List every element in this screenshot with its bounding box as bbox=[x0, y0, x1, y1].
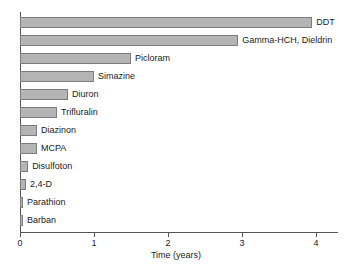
bar bbox=[20, 17, 312, 28]
x-axis-title: Time (years) bbox=[0, 250, 352, 260]
bar bbox=[20, 107, 57, 118]
bar-label: 2,4-D bbox=[30, 178, 52, 191]
bar-label: Parathion bbox=[27, 196, 66, 209]
x-tick-label: 2 bbox=[158, 238, 178, 249]
x-tick bbox=[20, 232, 21, 237]
bar-row: Disulfoton bbox=[0, 158, 352, 176]
bar-row: Diazinon bbox=[0, 122, 352, 140]
x-tick bbox=[242, 232, 243, 237]
bar bbox=[20, 35, 238, 46]
bar-label: Picloram bbox=[135, 52, 170, 65]
bar bbox=[20, 197, 23, 208]
bar-row: 2,4-D bbox=[0, 176, 352, 194]
bar-row: Barban bbox=[0, 212, 352, 230]
bar-label: MCPA bbox=[41, 142, 66, 155]
bar-label: Diazinon bbox=[41, 124, 76, 137]
bar bbox=[20, 71, 94, 82]
x-tick bbox=[94, 232, 95, 237]
bar-row: Diuron bbox=[0, 86, 352, 104]
horizontal-bar-chart: DDTGamma-HCH, DieldrinPicloramSimazineDi… bbox=[0, 0, 352, 268]
bar-label: DDT bbox=[316, 16, 335, 29]
bar-label: Trifluralin bbox=[61, 106, 98, 119]
bar bbox=[20, 161, 28, 172]
bar-label: Disulfoton bbox=[32, 160, 72, 173]
bar bbox=[20, 143, 37, 154]
x-tick-label: 1 bbox=[84, 238, 104, 249]
bar-row: Picloram bbox=[0, 50, 352, 68]
bar bbox=[20, 179, 26, 190]
x-axis-line bbox=[20, 232, 338, 233]
bar-row: Simazine bbox=[0, 68, 352, 86]
bar-label: Gamma-HCH, Dieldrin bbox=[242, 34, 332, 47]
bar bbox=[20, 89, 68, 100]
x-tick-label: 4 bbox=[306, 238, 326, 249]
bar bbox=[20, 53, 131, 64]
bar-label: Barban bbox=[27, 214, 56, 227]
bar bbox=[20, 125, 37, 136]
bar-row: Gamma-HCH, Dieldrin bbox=[0, 32, 352, 50]
x-tick-label: 3 bbox=[232, 238, 252, 249]
bar bbox=[20, 215, 23, 226]
bar-row: MCPA bbox=[0, 140, 352, 158]
bar-row: Trifluralin bbox=[0, 104, 352, 122]
x-tick bbox=[168, 232, 169, 237]
x-tick bbox=[316, 232, 317, 237]
bar-label: Diuron bbox=[72, 88, 99, 101]
bar-row: DDT bbox=[0, 14, 352, 32]
bar-row: Parathion bbox=[0, 194, 352, 212]
x-tick-label: 0 bbox=[10, 238, 30, 249]
bar-label: Simazine bbox=[98, 70, 135, 83]
